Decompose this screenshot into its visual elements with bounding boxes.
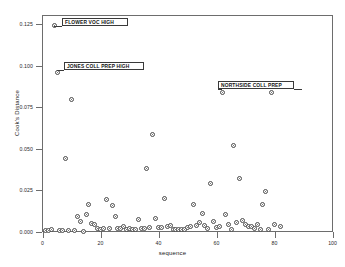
x-tick-mark	[217, 232, 218, 238]
y-tick-mark	[36, 232, 42, 233]
data-point	[133, 227, 138, 232]
x-tick-mark	[43, 232, 44, 238]
y-tick-label: 0.125	[20, 21, 33, 27]
x-tick-label: 80	[272, 240, 278, 246]
data-point	[162, 196, 167, 201]
data-point	[272, 222, 277, 227]
data-point	[136, 217, 141, 222]
x-tick-label: 60	[214, 240, 220, 246]
data-point	[78, 219, 83, 224]
x-tick-label: 100	[328, 240, 337, 246]
y-axis-title: Cook's Distance	[14, 58, 20, 168]
data-point	[200, 211, 205, 216]
data-point	[110, 203, 115, 208]
y-tick-mark	[36, 24, 42, 25]
y-tick-mark	[36, 149, 42, 150]
data-point	[72, 228, 77, 233]
data-point	[188, 224, 193, 229]
data-point	[81, 229, 86, 234]
y-tick-label: 0.000	[20, 229, 33, 235]
data-point	[113, 214, 118, 219]
y-tick-label: 0.100	[20, 63, 33, 69]
y-tick-mark	[36, 190, 42, 191]
annotation-leader-line	[218, 89, 222, 90]
point-annotation-label: JONES COLL PREP HIGH	[64, 62, 144, 70]
data-point	[49, 227, 54, 232]
data-point	[84, 212, 89, 217]
y-tick-label: 0.050	[20, 146, 33, 152]
data-point	[278, 224, 283, 229]
data-point	[153, 216, 158, 221]
data-point	[205, 226, 210, 231]
data-point	[142, 226, 147, 231]
data-point	[258, 227, 263, 232]
y-tick-mark	[36, 66, 42, 67]
data-point	[107, 226, 112, 231]
data-point	[217, 224, 222, 229]
y-tick-mark	[36, 107, 42, 108]
annotation-leader-line	[57, 70, 64, 71]
data-point	[226, 222, 231, 227]
point-annotation-label: FLOWER VOC HIGH	[62, 18, 128, 26]
x-tick-mark	[275, 232, 276, 238]
y-tick-label: 0.025	[20, 187, 33, 193]
data-point	[60, 228, 65, 233]
x-tick-mark	[333, 232, 334, 238]
data-point	[66, 228, 71, 233]
x-tick-label: 0	[41, 240, 44, 246]
x-tick-mark	[159, 232, 160, 238]
x-axis-title: sequence	[0, 250, 345, 256]
data-point	[220, 90, 225, 95]
x-tick-label: 20	[98, 240, 104, 246]
cooks-distance-scatter-chart: 0.0000.0250.0500.0750.1000.125 020406080…	[0, 0, 345, 267]
annotation-leader-line	[54, 26, 62, 27]
annotation-leader-line	[294, 89, 302, 90]
data-point	[63, 156, 68, 161]
y-tick-label: 0.075	[20, 104, 33, 110]
x-tick-mark	[101, 232, 102, 238]
plot-frame	[42, 15, 333, 232]
data-point	[229, 227, 234, 232]
point-annotation-label: NORTHSIDE COLL PREP	[218, 81, 294, 89]
x-tick-label: 40	[156, 240, 162, 246]
data-point	[159, 225, 164, 230]
